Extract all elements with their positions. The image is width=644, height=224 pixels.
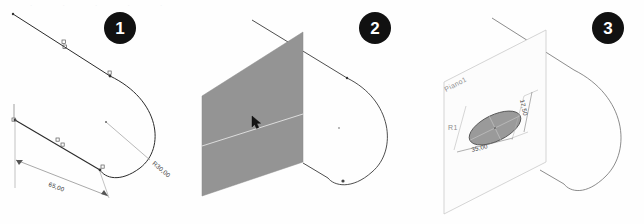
figure-canvas: . . . . .: [0, 0, 644, 224]
endpoint-tangent: [346, 77, 348, 79]
profile-arc: [100, 76, 155, 178]
radius-leader-line: [106, 122, 150, 160]
endpoint-bottom: [99, 169, 102, 172]
constraint-markers: [12, 40, 111, 168]
length-dimension-label: 65,00: [48, 180, 66, 193]
origin-marker-label: R1: [448, 124, 458, 131]
profile-arc: [564, 70, 621, 191]
arc-center-point: [338, 127, 340, 129]
dim-arrow-end: [101, 190, 108, 196]
endpoint-top: [12, 13, 14, 15]
profile-bottom-line: [540, 170, 564, 184]
profile-arc: [328, 78, 387, 185]
endpoint-bottom: [341, 179, 344, 182]
reference-plane[interactable]: [202, 32, 303, 196]
profile-bottom-line: [15, 120, 100, 170]
step-badge-1: 1: [104, 12, 136, 44]
step-badge-2: 2: [359, 12, 391, 44]
endpoint-tangent: [109, 75, 112, 78]
length-dimension-group: 65,00: [15, 122, 109, 198]
arc-center-point: [105, 121, 107, 123]
profile-top-line: [13, 14, 110, 76]
profile-bottom-line: [303, 163, 328, 178]
step-badge-3: 3: [592, 12, 624, 44]
radius-dimension-label: R30,00: [151, 159, 172, 178]
